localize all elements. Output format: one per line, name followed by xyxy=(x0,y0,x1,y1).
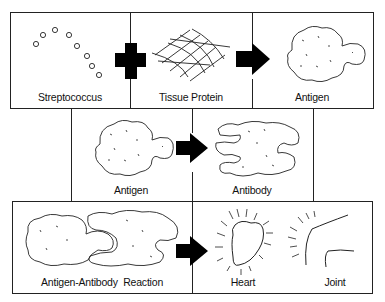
panel-label-antigen-1: Antigen xyxy=(295,91,329,103)
row3-divider xyxy=(192,201,193,239)
plus-icon xyxy=(115,43,147,79)
row2-divider xyxy=(192,108,193,133)
streptococcus-chain-icon xyxy=(0,0,130,100)
row1-divider-1b xyxy=(130,79,131,109)
tissue-mesh-icon xyxy=(150,25,240,80)
inflamed-joint-icon xyxy=(282,205,372,275)
panel-label-antibody: Antibody xyxy=(232,184,271,196)
arrow-right-icon xyxy=(176,236,208,266)
antigen-blob-icon xyxy=(88,114,188,179)
arrow-right-icon xyxy=(176,133,208,163)
panel-label-heart: Heart xyxy=(231,276,256,288)
row1-divider-2 xyxy=(252,12,253,45)
arrow-right-icon xyxy=(236,43,270,75)
panel-label-joint: Joint xyxy=(324,276,345,288)
row1-divider-1 xyxy=(130,12,131,45)
panel-label-antigen-2: Antigen xyxy=(114,184,148,196)
panel-label-streptococcus: Streptococcus xyxy=(38,91,102,103)
panel-label-antigen-antibody-reaction: Antigen-Antibody Reaction xyxy=(41,276,163,288)
panel-label-tissue-protein: Tissue Protein xyxy=(159,91,223,103)
inflamed-heart-icon xyxy=(205,205,290,275)
row1-divider-2b xyxy=(252,79,253,109)
row3-divider-b xyxy=(192,262,193,294)
antigen-blob-icon xyxy=(272,20,372,85)
antigen-antibody-complex-icon xyxy=(20,206,190,271)
row2-divider-b xyxy=(192,172,193,202)
antibody-blob-icon xyxy=(212,117,312,182)
